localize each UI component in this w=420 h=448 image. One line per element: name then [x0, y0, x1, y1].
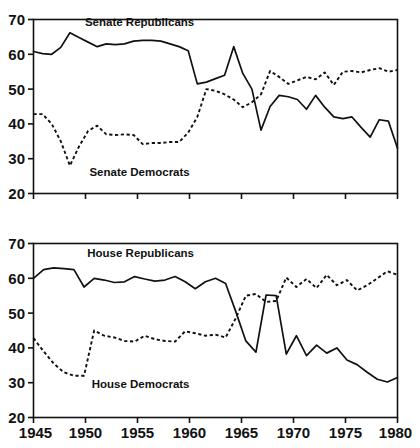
- x-tick-label-house-1955: 1955: [121, 424, 154, 441]
- x-tick-label-house-1950: 1950: [69, 424, 102, 441]
- y-tick-label-senate-70: 70: [8, 11, 25, 28]
- x-tick-label-house-1960: 1960: [173, 424, 206, 441]
- series-label-senate-republicans: Senate Republicans: [85, 16, 194, 28]
- y-tick-label-house-40: 40: [8, 339, 25, 356]
- x-tick-label-house-1965: 1965: [225, 424, 258, 441]
- y-tick-label-house-30: 30: [8, 374, 25, 391]
- x-tick-label-house-1970: 1970: [277, 424, 310, 441]
- series-label-house-democrats: House Democrats: [92, 378, 190, 390]
- y-tick-label-senate-30: 30: [8, 150, 25, 167]
- chart-background: [0, 0, 420, 448]
- two-panel-line-chart: 203040506070Senate RepublicansSenate Dem…: [0, 0, 420, 448]
- series-label-senate-democrats: Senate Democrats: [89, 166, 189, 178]
- x-tick-label-house-1945: 1945: [19, 424, 52, 441]
- series-label-house-republicans: House Republicans: [87, 247, 194, 259]
- y-tick-label-senate-40: 40: [8, 115, 25, 132]
- y-tick-label-senate-20: 20: [8, 185, 25, 202]
- y-tick-label-house-60: 60: [8, 270, 25, 287]
- x-tick-label-house-1980: 1980: [379, 424, 412, 441]
- y-tick-label-senate-60: 60: [8, 46, 25, 63]
- figure-container: 203040506070Senate RepublicansSenate Dem…: [0, 0, 420, 448]
- y-tick-label-house-70: 70: [8, 235, 25, 252]
- y-tick-label-senate-50: 50: [8, 81, 25, 98]
- y-tick-label-house-50: 50: [8, 305, 25, 322]
- x-tick-label-house-1975: 1975: [329, 424, 362, 441]
